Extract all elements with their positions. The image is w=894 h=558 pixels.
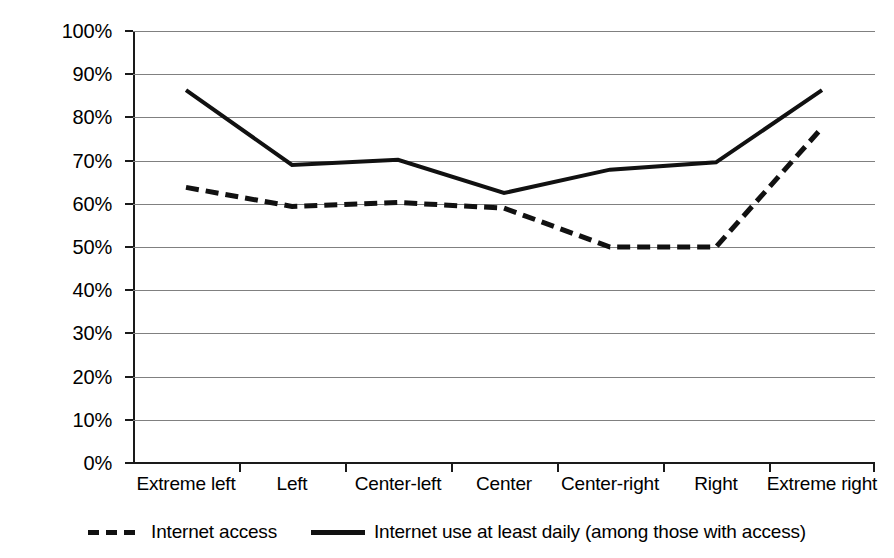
legend-label: Internet use at least daily (among those… bbox=[374, 521, 806, 543]
y-axis-tick-mark bbox=[125, 376, 133, 378]
y-axis-tick-mark bbox=[125, 332, 133, 334]
y-axis-tick-label: 90% bbox=[73, 64, 112, 84]
y-axis-tick-mark bbox=[125, 160, 133, 162]
x-axis-category-label: Center-right bbox=[561, 472, 659, 496]
y-axis-tick-mark bbox=[125, 30, 133, 32]
series-line-internet-use-daily bbox=[186, 90, 822, 193]
x-axis-category-label: Right bbox=[694, 472, 737, 496]
dashed-line-swatch-icon bbox=[88, 530, 142, 535]
x-axis-category-label: Extreme left bbox=[137, 472, 236, 496]
y-axis-tick-mark bbox=[125, 203, 133, 205]
solid-line-swatch-icon bbox=[311, 530, 365, 535]
x-axis-labels: Extreme leftLeftCenter-leftCenterCenter-… bbox=[133, 472, 875, 502]
y-axis-tick-label: 50% bbox=[73, 237, 112, 257]
x-axis-category-label: Extreme right bbox=[767, 472, 877, 496]
y-axis-tick-mark bbox=[125, 116, 133, 118]
y-axis-tick-label: 20% bbox=[73, 367, 112, 387]
y-axis-tick-mark bbox=[125, 246, 133, 248]
x-axis-tick-mark bbox=[663, 463, 665, 472]
x-axis-tick-mark bbox=[557, 463, 559, 472]
y-axis-tick-label: 40% bbox=[73, 280, 112, 300]
plot-area bbox=[133, 31, 875, 463]
x-axis-tick-mark bbox=[769, 463, 771, 472]
x-axis-tick-mark bbox=[451, 463, 453, 472]
chart-legend: Internet access Internet use at least da… bbox=[0, 516, 894, 548]
y-axis-tick-mark bbox=[125, 289, 133, 291]
y-axis-tick-label: 80% bbox=[73, 107, 112, 127]
series-line-internet-access bbox=[186, 128, 822, 247]
y-axis-labels: 100%90%80%70%60%50%40%30%20%10%0% bbox=[0, 0, 126, 558]
legend-label: Internet access bbox=[151, 521, 277, 543]
x-axis-tick-mark bbox=[239, 463, 241, 472]
y-axis-tick-label: 100% bbox=[62, 21, 112, 41]
y-axis-tick-mark bbox=[125, 462, 133, 464]
line-chart: 100%90%80%70%60%50%40%30%20%10%0% Extrem… bbox=[0, 0, 894, 558]
legend-item-internet-access: Internet access bbox=[88, 521, 277, 543]
y-axis-tick-label: 70% bbox=[73, 151, 112, 171]
y-axis-tick-mark bbox=[125, 73, 133, 75]
y-axis-tick-label: 30% bbox=[73, 323, 112, 343]
x-axis-tick-mark bbox=[345, 463, 347, 472]
y-axis-tick-label: 10% bbox=[73, 410, 112, 430]
series-layer bbox=[133, 31, 875, 463]
x-axis-category-label: Center bbox=[476, 472, 532, 496]
y-axis-tick-label: 60% bbox=[73, 194, 112, 214]
y-axis-tick-label: 0% bbox=[83, 453, 112, 473]
y-axis-tick-mark bbox=[125, 419, 133, 421]
x-axis-category-label: Center-left bbox=[355, 472, 442, 496]
legend-item-internet-use-daily: Internet use at least daily (among those… bbox=[311, 521, 806, 543]
x-axis-category-label: Left bbox=[277, 472, 308, 496]
x-axis-end-tick bbox=[873, 463, 875, 472]
